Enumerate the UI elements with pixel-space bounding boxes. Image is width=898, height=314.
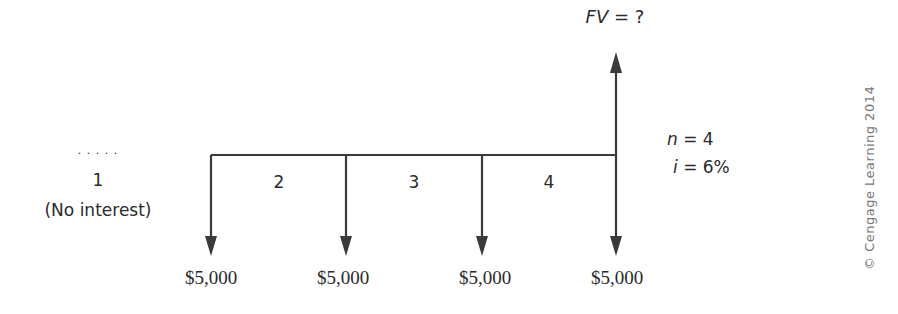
copyright-notice: © Cengage Learning 2014 xyxy=(862,86,877,270)
param-i: i = 6% xyxy=(673,157,730,177)
period-4-label: 4 xyxy=(544,172,555,192)
payment-4: $5,000 xyxy=(591,267,643,289)
fv-var: FV xyxy=(586,6,609,27)
arrowhead-up xyxy=(610,52,622,73)
period-1-note: (No interest) xyxy=(44,200,151,220)
arrowheads-down xyxy=(205,236,622,256)
n-rest: = 4 xyxy=(678,129,714,149)
payment-1: $5,000 xyxy=(185,267,237,289)
fv-rest: = ? xyxy=(608,6,644,27)
period-3-label: 3 xyxy=(409,172,420,192)
n-var: n xyxy=(667,129,678,149)
ellipsis-dots: . . . . . xyxy=(78,144,118,157)
payment-arrows xyxy=(211,155,616,240)
payment-2: $5,000 xyxy=(317,267,369,289)
timeline-graphic xyxy=(0,0,898,314)
period-2-label: 2 xyxy=(274,172,285,192)
period-1-label: 1 xyxy=(93,170,104,190)
param-n: n = 4 xyxy=(667,129,714,149)
fv-label: FV = ? xyxy=(586,6,645,27)
i-rest: = 6% xyxy=(678,157,730,177)
payment-3: $5,000 xyxy=(459,267,511,289)
